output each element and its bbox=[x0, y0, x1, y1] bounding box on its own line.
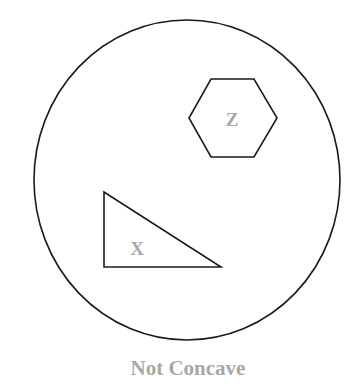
triangle-x bbox=[104, 192, 221, 267]
caption: Not Concave bbox=[131, 356, 246, 380]
universe-circle bbox=[34, 20, 340, 340]
diagram-canvas: Z X Not Concave bbox=[0, 0, 358, 384]
triangle-label: X bbox=[130, 238, 144, 259]
hexagon-label: Z bbox=[226, 109, 239, 130]
